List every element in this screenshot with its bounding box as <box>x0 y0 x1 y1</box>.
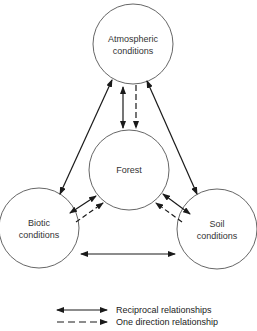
node-atmospheric-label-2: conditions <box>113 46 154 56</box>
node-biotic: Biotic conditions <box>0 188 79 268</box>
ecosystem-diagram: Atmospheric conditions Forest Biotic con… <box>0 0 257 331</box>
node-biotic-label-1: Biotic <box>28 218 51 228</box>
node-atmospheric: Atmospheric conditions <box>93 4 173 84</box>
legend-one-direction-label: One direction relationship <box>116 317 218 327</box>
node-forest-label: Forest <box>116 165 142 175</box>
legend-reciprocal-label: Reciprocal relationships <box>116 305 212 315</box>
node-soil: Soil conditions <box>177 189 257 269</box>
node-biotic-label-2: conditions <box>19 230 60 240</box>
node-soil-label-2: conditions <box>197 231 238 241</box>
legend: Reciprocal relationships One direction r… <box>57 305 218 327</box>
node-atmospheric-label-1: Atmospheric <box>108 34 159 44</box>
node-soil-label-1: Soil <box>209 219 224 229</box>
node-forest: Forest <box>89 130 169 210</box>
